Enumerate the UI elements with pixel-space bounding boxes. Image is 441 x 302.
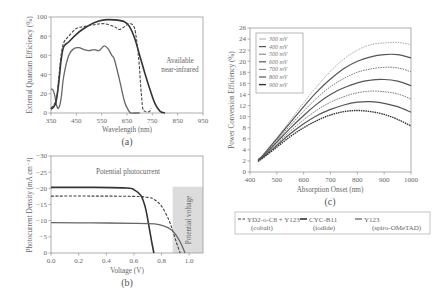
y-tick-label: 2 — [243, 157, 247, 165]
series-line — [51, 46, 140, 113]
annotation-potential-photocurrent: Potential photocurrent — [96, 168, 160, 176]
legend-label: 800 mV — [269, 74, 289, 80]
y-tick-label: −15 — [36, 201, 47, 209]
panel-b-jv-chart: 0.00.20.40.60.81.00−5−10−15−20−25−30 Pot… — [26, 152, 203, 289]
y-tick-label: −5 — [40, 233, 48, 241]
x-tick-label: 400 — [245, 176, 256, 184]
x-tick-label: 600 — [298, 176, 309, 184]
y-tick-label: −30 — [36, 152, 47, 160]
y-tick-label: −10 — [36, 217, 47, 225]
x-tick-label: 900 — [379, 176, 390, 184]
y-axis-label-c: Power Conversion Efficiency (%) — [228, 51, 236, 149]
y-tick-label: 10 — [239, 113, 247, 121]
x-tick-label: 0.4 — [102, 257, 111, 265]
y-tick-label: −20 — [36, 185, 47, 193]
y-tick-label: 14 — [239, 91, 247, 99]
annotation-available: Available — [166, 57, 193, 65]
x-axis-label-b: Voltage (V) — [110, 267, 144, 275]
series-line — [51, 20, 165, 113]
shared-legend-label: YD2-o-C8 + Y123 — [247, 216, 300, 224]
y-tick-label: 8 — [243, 124, 247, 132]
shared-legend-label: Y123 — [364, 216, 380, 224]
figure: 350450550650750850950020406080100 Availa… — [0, 0, 441, 302]
x-tick-label: 650 — [122, 117, 133, 125]
legend-label: 600 mV — [269, 59, 289, 65]
shared-legend-sublabel: (cobalt) — [251, 224, 273, 232]
legend-label: 700 mV — [269, 66, 289, 72]
legend-label: 400 mV — [269, 44, 289, 50]
y-tick-label: 0 — [44, 249, 48, 257]
caption-c: (c) — [324, 196, 335, 208]
series-line — [51, 223, 185, 253]
x-tick-label: 500 — [272, 176, 283, 184]
y-tick-label: 0 — [44, 109, 48, 117]
y-tick-label: 24 — [239, 35, 247, 43]
y-tick-label: 100 — [37, 13, 48, 21]
legend-label: 900 mV — [269, 82, 289, 88]
panel-a-eqe-chart: 350450550650750850950020406080100 Availa… — [26, 13, 209, 148]
x-tick-label: 800 — [352, 176, 363, 184]
x-tick-label: 0.2 — [74, 257, 83, 265]
data-series-b — [51, 187, 185, 253]
x-tick-label: 450 — [71, 117, 82, 125]
plot-area-a — [51, 17, 203, 113]
x-tick-label: 850 — [172, 117, 183, 125]
y-axis-label-a: External Quantum Efficiency (%) — [26, 16, 34, 114]
y-tick-label: 80 — [40, 33, 48, 41]
y-tick-label: 22 — [239, 47, 247, 55]
y-axis-label-b: Photocurrent Density (mA cm⁻²) — [26, 157, 34, 253]
annotation-near-infrared: near-infrared — [161, 66, 199, 74]
legend-label: 300 mV — [268, 36, 289, 42]
y-tick-label: 60 — [40, 52, 48, 60]
y-tick-label: 20 — [40, 90, 48, 98]
x-tick-label: 1.0 — [185, 257, 194, 265]
caption-b: (b) — [121, 277, 133, 289]
series-line — [51, 187, 154, 253]
x-tick-label: 550 — [96, 117, 107, 125]
shared-legend-sublabel: (iodide) — [313, 224, 336, 232]
legend-label: 500 mV — [269, 51, 289, 57]
x-axis-label-a: Wavelength (nm) — [102, 126, 153, 134]
x-tick-label: 1000 — [404, 176, 419, 184]
y-tick-label: 0 — [243, 168, 247, 176]
y-tick-label: −25 — [36, 169, 47, 177]
x-tick-label: 0.6 — [130, 257, 139, 265]
series-line — [51, 24, 151, 112]
x-axis-label-c: Absorption Onset (nm) — [297, 186, 364, 194]
series-line — [258, 102, 411, 161]
shared-legend-sublabel: (spiro-OMeTAD) — [372, 224, 422, 232]
y-tick-label: 4 — [243, 146, 247, 154]
shared-legend: YD2-o-C8 + Y123(cobalt)CYC-B11(iodide)Y1… — [235, 212, 430, 234]
x-tick-label: 700 — [325, 176, 336, 184]
x-tick-label: 750 — [147, 117, 158, 125]
shared-legend-label: CYC-B11 — [309, 216, 338, 224]
caption-a: (a) — [121, 136, 132, 148]
y-tick-label: 18 — [239, 69, 247, 77]
series-line — [258, 91, 411, 161]
annotation-potential-voltage: Potential voltage — [185, 196, 193, 245]
y-tick-label: 6 — [243, 135, 247, 143]
legend-c: 300 mV400 mV500 mV600 mV700 mV800 mV900 … — [256, 33, 303, 93]
y-tick-label: 16 — [239, 80, 247, 88]
y-tick-label: 12 — [239, 102, 247, 110]
x-tick-label: 950 — [198, 117, 209, 125]
y-tick-label: 20 — [239, 58, 247, 66]
y-tick-label: 26 — [239, 24, 247, 32]
y-tick-label: 40 — [40, 71, 48, 79]
x-tick-label: 0.0 — [47, 257, 56, 265]
x-tick-label: 0.8 — [157, 257, 166, 265]
data-series-a — [51, 20, 165, 114]
x-tick-label: 350 — [46, 117, 57, 125]
panel-c-pce-chart: 4005006007008009001000024681012141618202… — [228, 24, 419, 208]
